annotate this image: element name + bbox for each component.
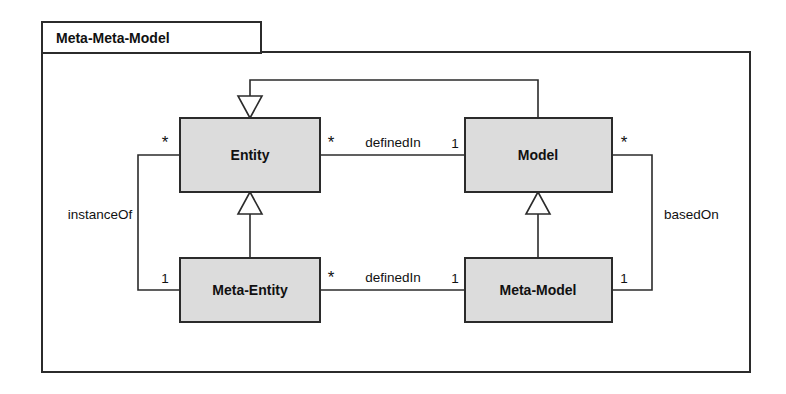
association-label-entity-instanceof-metaentity: instanceOf (68, 207, 133, 222)
class-name-meta-entity: Meta-Entity (212, 282, 288, 298)
uml-diagram-canvas: Meta-Meta-Model definedIn * 1 definedIn … (0, 0, 786, 394)
multiplicity-metaentity-definedin-target: 1 (451, 271, 459, 286)
package-frame (42, 52, 750, 372)
multiplicity-instanceof-target: 1 (161, 271, 169, 286)
multiplicity-basedon-target: 1 (620, 271, 628, 286)
generalization-arrow-model-to-entity (238, 96, 262, 118)
association-line-model-basedon-metamodel (612, 155, 652, 290)
multiplicity-basedon-source: * (621, 133, 628, 152)
multiplicity-entity-definedin-source: * (328, 133, 335, 152)
association-label-model-basedon-metamodel: basedOn (664, 207, 719, 222)
package-tab-label: Meta-Meta-Model (56, 30, 170, 46)
association-line-entity-instanceof-metaentity (138, 155, 180, 290)
class-name-model: Model (518, 147, 558, 163)
class-node-entity[interactable]: Entity (180, 118, 320, 192)
association-label-metaentity-definedin-metamodel: definedIn (365, 270, 421, 285)
association-label-entity-definedin-model: definedIn (365, 135, 421, 150)
uml-diagram-svg: Meta-Meta-Model definedIn * 1 definedIn … (0, 0, 786, 394)
class-name-entity: Entity (231, 147, 270, 163)
class-node-meta-model[interactable]: Meta-Model (465, 258, 612, 322)
multiplicity-entity-definedin-target: 1 (451, 136, 459, 151)
generalization-line-model-to-entity (250, 80, 538, 118)
generalization-arrow-metaentity-to-entity (238, 192, 262, 214)
generalization-arrow-metamodel-to-model (526, 192, 550, 214)
multiplicity-instanceof-source: * (162, 133, 169, 152)
class-node-meta-entity[interactable]: Meta-Entity (180, 258, 320, 322)
class-name-meta-model: Meta-Model (500, 282, 577, 298)
multiplicity-metaentity-definedin-source: * (328, 268, 335, 287)
class-node-model[interactable]: Model (465, 118, 612, 192)
